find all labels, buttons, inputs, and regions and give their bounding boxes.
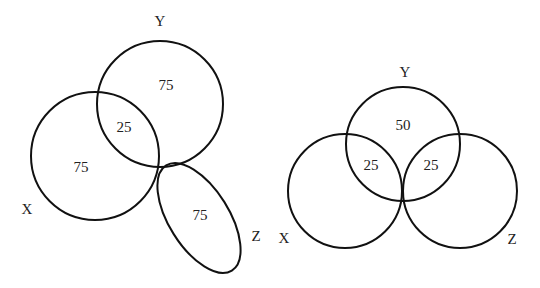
left-label-x: X bbox=[22, 201, 33, 217]
right-label-x: X bbox=[279, 230, 290, 246]
left-label-y: Y bbox=[155, 13, 166, 29]
right-set-x-circle bbox=[288, 134, 402, 248]
left-set-y-circle bbox=[97, 41, 223, 167]
left-value-y-only: 75 bbox=[159, 77, 174, 93]
right-venn-diagram: Y X Z 50 25 25 bbox=[279, 64, 517, 248]
left-value-z-only: 75 bbox=[193, 207, 208, 223]
right-label-y: Y bbox=[400, 64, 411, 80]
right-value-xy: 25 bbox=[364, 157, 379, 173]
left-label-z: Z bbox=[251, 228, 260, 244]
left-venn-diagram: Y X Z 75 25 75 75 bbox=[22, 13, 261, 286]
left-set-x-circle bbox=[31, 92, 159, 220]
left-value-xy: 25 bbox=[117, 119, 132, 135]
right-value-y-only: 50 bbox=[396, 117, 411, 133]
right-label-z: Z bbox=[507, 231, 516, 247]
right-value-yz: 25 bbox=[424, 157, 439, 173]
venn-diagrams-canvas: Y X Z 75 25 75 75 Y X Z 50 25 25 bbox=[0, 0, 540, 288]
left-value-x-only: 75 bbox=[74, 159, 89, 175]
